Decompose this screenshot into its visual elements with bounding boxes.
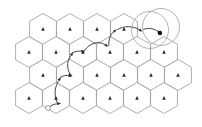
hex-grid-figure <box>0 0 202 127</box>
figure-canvas <box>0 0 202 127</box>
path-segment-seg-9 <box>144 28 159 31</box>
honeycomb-grid <box>16 14 192 114</box>
path-end-node <box>158 31 162 35</box>
path-start-node <box>46 106 51 111</box>
